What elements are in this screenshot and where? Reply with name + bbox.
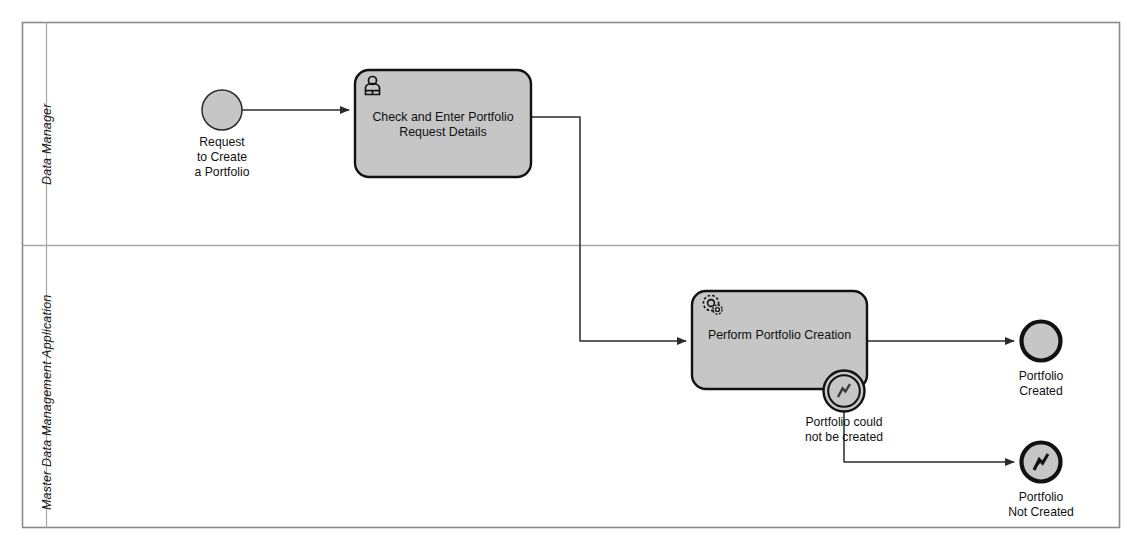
bpmn-diagram-svg [0,0,1139,559]
end-event-portfolio-created[interactable] [1022,322,1061,361]
boundary-error-event-portfolio-could-not-be-created[interactable] [824,371,865,412]
event-label-portfolio-could-not-be-created: Portfolio could not be created [789,415,899,445]
pool-container [23,23,1120,528]
lane-title-mdm-application: Master Data Management Application [40,295,54,510]
start-event-circle[interactable] [202,90,242,130]
bpmn-diagram-canvas: Data Manager Master Data Management Appl… [0,0,1139,559]
pool-outline [23,23,1120,528]
task-label-check-and-enter: Check and Enter Portfolio Request Detail… [358,90,528,160]
event-label-portfolio-not-created: Portfolio Not Created [991,490,1091,520]
end-event-error-portfolio-not-created[interactable] [1022,443,1061,482]
event-label-portfolio-created: Portfolio Created [996,369,1086,399]
event-label-request-to-create-a-portfolio: Request to Create a Portfolio [182,135,262,180]
task-label-perform-creation: Perform Portfolio Creation [694,306,865,366]
start-event-request-to-create-a-portfolio[interactable] [202,90,242,130]
lane-title-data-manager: Data Manager [40,103,54,185]
end-event-circle[interactable] [1022,322,1061,361]
